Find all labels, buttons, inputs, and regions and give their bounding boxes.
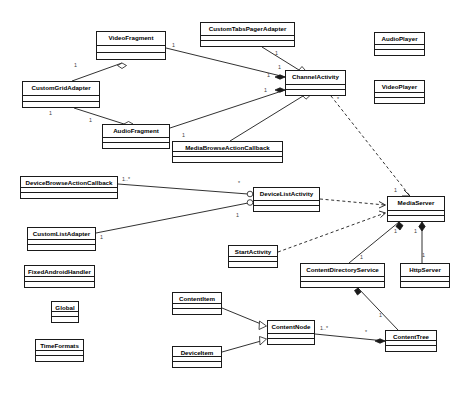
uml-class-diagram: VideoFragmentCustomTabsPagerAdapterAudio… — [0, 0, 464, 394]
uml-class-attributes-video_fragment — [97, 46, 165, 53]
multiplicity-label-m22: * — [337, 97, 339, 102]
uml-class-video_player[interactable]: VideoPlayer — [374, 80, 425, 104]
uml-class-name-start_activity: StartActivity — [229, 246, 277, 257]
uml-class-operations-audio_fragment — [103, 143, 169, 148]
uml-class-operations-time_formats — [36, 356, 83, 361]
multiplicity-label-m7: 1 — [49, 111, 52, 116]
uml-class-name-device_browse_action_callback: DeviceBrowseActionCallback — [21, 177, 117, 188]
uml-class-name-global: Global — [52, 302, 78, 312]
uml-class-media_server[interactable]: MediaServer — [387, 196, 445, 222]
uml-class-operations-audio_player — [375, 50, 424, 55]
multiplicity-label-m14: 1 — [394, 188, 397, 193]
uml-class-video_fragment[interactable]: VideoFragment — [96, 31, 166, 60]
uml-class-audio_player[interactable]: AudioPlayer — [374, 32, 425, 56]
uml-class-operations-device_browse_action_callback — [21, 193, 117, 198]
uml-class-name-content_directory_service: ContentDirectoryService — [301, 264, 384, 277]
multiplicity-label-m3: 1 — [275, 51, 278, 56]
multiplicity-label-m17: 1 — [360, 255, 363, 260]
uml-class-device_item[interactable]: DeviceItem — [172, 346, 222, 368]
uml-class-name-video_player: VideoPlayer — [375, 81, 424, 93]
uml-class-audio_fragment[interactable]: AudioFragment — [102, 124, 170, 149]
uml-class-name-content_tree: ContentTree — [386, 331, 436, 341]
uml-class-device_list_activity[interactable]: DeviceListActivity — [253, 187, 320, 212]
uml-class-name-custom_tabs_pager_adapter: CustomTabsPagerAdapter — [201, 23, 294, 36]
multiplicity-label-m18: 1 — [422, 253, 425, 258]
uml-class-name-custom_grid_adapter: CustomGridAdapter — [23, 82, 99, 96]
uml-class-operations-http_server — [401, 282, 449, 287]
uml-class-name-media_server: MediaServer — [388, 197, 444, 211]
uml-class-name-custom_list_adapter: CustomListAdapter — [28, 228, 95, 240]
uml-class-name-channel_activity: ChannelActivity — [286, 71, 345, 85]
multiplicity-label-m2: 1 — [172, 43, 175, 48]
uml-class-name-device_item: DeviceItem — [173, 347, 221, 357]
uml-class-operations-video_fragment — [97, 53, 165, 59]
uml-class-start_activity[interactable]: StartActivity — [228, 245, 278, 268]
uml-class-channel_activity[interactable]: ChannelActivity — [285, 70, 346, 96]
uml-class-operations-custom_list_adapter — [28, 245, 95, 250]
multiplicity-label-m4: 1 — [278, 65, 281, 70]
multiplicity-label-m13: 1 — [100, 235, 103, 240]
uml-class-time_formats[interactable]: TimeFormats — [35, 339, 84, 362]
uml-class-name-fixed_android_handler: FixedAndroidHandler — [25, 266, 94, 277]
uml-class-operations-content_node — [268, 339, 314, 344]
multiplicity-label-m21: * — [365, 330, 367, 335]
uml-class-operations-device_list_activity — [254, 206, 319, 211]
uml-class-name-video_fragment: VideoFragment — [97, 32, 165, 46]
uml-class-operations-device_item — [173, 362, 221, 367]
uml-class-custom_tabs_pager_adapter[interactable]: CustomTabsPagerAdapter — [200, 22, 295, 47]
multiplicity-label-m9: 1 — [182, 133, 185, 138]
uml-class-operations-start_activity — [229, 262, 277, 267]
uml-class-content_directory_service[interactable]: ContentDirectoryService — [300, 263, 385, 288]
multiplicity-label-m5: 1 — [267, 73, 270, 78]
uml-class-name-audio_player: AudioPlayer — [375, 33, 424, 45]
uml-class-name-device_list_activity: DeviceListActivity — [254, 188, 319, 201]
uml-class-content_node[interactable]: ContentNode — [267, 320, 315, 345]
uml-class-content_tree[interactable]: ContentTree — [385, 330, 437, 352]
uml-class-name-media_browse_action_callback: MediaBrowseActionCallback — [173, 142, 282, 152]
uml-class-operations-content_directory_service — [301, 282, 384, 287]
multiplicity-label-m20: 1..* — [320, 326, 328, 331]
multiplicity-label-m19: 1 — [379, 313, 382, 318]
uml-class-name-content_item: ContentItem — [173, 293, 221, 304]
multiplicity-label-m12: 1 — [236, 213, 239, 218]
uml-class-operations-custom_tabs_pager_adapter — [201, 41, 294, 46]
multiplicity-label-m11: * — [238, 181, 240, 186]
uml-class-operations-video_player — [375, 98, 424, 103]
uml-class-name-content_node: ContentNode — [268, 321, 314, 334]
uml-class-operations-global — [52, 317, 78, 322]
multiplicity-label-m16: 1 — [414, 229, 417, 234]
uml-class-operations-custom_grid_adapter — [23, 102, 99, 107]
uml-class-name-time_formats: TimeFormats — [36, 340, 83, 351]
class-node-layer: VideoFragmentCustomTabsPagerAdapterAudio… — [0, 0, 464, 394]
uml-class-operations-content_tree — [386, 346, 436, 351]
uml-class-operations-channel_activity — [286, 90, 345, 95]
uml-class-operations-media_server — [388, 216, 444, 221]
uml-class-device_browse_action_callback[interactable]: DeviceBrowseActionCallback — [20, 176, 118, 199]
uml-class-custom_list_adapter[interactable]: CustomListAdapter — [27, 227, 96, 251]
uml-class-operations-fixed_android_handler — [25, 282, 94, 287]
uml-class-custom_grid_adapter[interactable]: CustomGridAdapter — [22, 81, 100, 108]
multiplicity-label-m15: 1 — [394, 229, 397, 234]
uml-class-name-audio_fragment: AudioFragment — [103, 125, 169, 138]
uml-class-fixed_android_handler[interactable]: FixedAndroidHandler — [24, 265, 95, 288]
uml-class-operations-content_item — [173, 309, 221, 314]
uml-class-operations-media_browse_action_callback — [173, 157, 282, 162]
uml-class-global[interactable]: Global — [51, 301, 79, 323]
multiplicity-label-m8: 1 — [89, 118, 92, 123]
multiplicity-label-m10: 1..* — [122, 177, 130, 182]
uml-class-name-http_server: HttpServer — [401, 264, 449, 277]
multiplicity-label-m6: 1 — [264, 88, 267, 93]
multiplicity-label-m1: 1 — [74, 63, 77, 68]
uml-class-content_item[interactable]: ContentItem — [172, 292, 222, 315]
uml-class-media_browse_action_callback[interactable]: MediaBrowseActionCallback — [172, 141, 283, 163]
uml-class-http_server[interactable]: HttpServer — [400, 263, 450, 288]
